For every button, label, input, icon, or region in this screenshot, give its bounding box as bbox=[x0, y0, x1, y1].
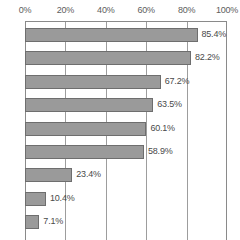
bar bbox=[25, 75, 161, 89]
bar bbox=[25, 168, 72, 182]
bar bbox=[25, 192, 46, 206]
x-tick-label-60: 60% bbox=[137, 5, 154, 15]
bar-value-label: 63.5% bbox=[157, 99, 182, 109]
bar bbox=[25, 51, 191, 65]
bar-row: 23.4% bbox=[25, 168, 227, 182]
bar-row: 58.9% bbox=[25, 145, 227, 159]
bar-row: 7.1% bbox=[25, 215, 227, 229]
bar-value-label: 23.4% bbox=[76, 169, 101, 179]
bar-value-label: 10.4% bbox=[50, 193, 75, 203]
bar bbox=[25, 122, 146, 136]
bar-value-label: 7.1% bbox=[43, 216, 63, 226]
horizontal-bar-chart: 0%20%40%60%80%100% 85.4%82.2%67.2%63.5%6… bbox=[0, 0, 240, 240]
bar-value-label: 82.2% bbox=[195, 52, 220, 62]
x-tick-label-80: 80% bbox=[178, 5, 195, 15]
bar-value-label: 60.1% bbox=[150, 123, 175, 133]
x-tick-label-20: 20% bbox=[57, 5, 74, 15]
bar-value-label: 85.4% bbox=[202, 29, 227, 39]
bars-container: 85.4%82.2%67.2%63.5%60.1%58.9%23.4%10.4%… bbox=[25, 21, 227, 240]
bar-row: 10.4% bbox=[25, 192, 227, 206]
bar bbox=[25, 28, 198, 42]
bar bbox=[25, 98, 153, 112]
bar-row: 82.2% bbox=[25, 51, 227, 65]
bar-value-label: 58.9% bbox=[148, 146, 173, 156]
x-tick-label-0: 0% bbox=[19, 5, 32, 15]
bar bbox=[25, 145, 144, 159]
x-axis-tick-labels: 0%20%40%60%80%100% bbox=[0, 0, 240, 22]
x-tick-label-100: 100% bbox=[216, 5, 238, 15]
x-tick-label-40: 40% bbox=[97, 5, 114, 15]
bar-row: 63.5% bbox=[25, 98, 227, 112]
bar-row: 67.2% bbox=[25, 75, 227, 89]
bar-value-label: 67.2% bbox=[165, 76, 190, 86]
category-axis-labels bbox=[0, 21, 25, 240]
bar bbox=[25, 215, 39, 229]
bar-row: 85.4% bbox=[25, 28, 227, 42]
bar-row: 60.1% bbox=[25, 122, 227, 136]
